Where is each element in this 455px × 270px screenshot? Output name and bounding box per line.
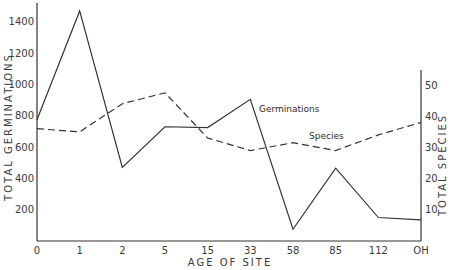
species-annotation: Species (309, 131, 344, 141)
x-tick-label: 85 (329, 245, 342, 256)
x-tick-label: 1 (76, 245, 82, 256)
y2-tick-label: 40 (425, 111, 438, 122)
y2-tick-label: 10 (425, 204, 438, 215)
y2-tick-label: 50 (425, 80, 438, 91)
x-tick-label: 15 (201, 245, 214, 256)
x-tick-label: 112 (369, 245, 388, 256)
y-tick-label: 600 (15, 142, 34, 153)
germinations-line (37, 11, 421, 229)
x-tick-labels: 012515335885112OH (34, 245, 429, 256)
y2-axis-title: TOTAL SPECIES (437, 114, 448, 217)
y-tick-label: 200 (15, 204, 34, 215)
x-tick-label: 0 (34, 245, 40, 256)
line-chart: 200400600800100012001400 1020304050 0125… (0, 0, 455, 270)
y2-tick-label: 20 (425, 173, 438, 184)
y-tick-label: 1400 (9, 16, 34, 27)
x-tick-label: 5 (162, 245, 168, 256)
germinations-annotation: Germinations (259, 104, 320, 114)
x-axis-title: AGE OF SITE (188, 257, 272, 268)
y-tick-label: 400 (15, 173, 34, 184)
x-tick-label: 58 (287, 245, 300, 256)
y2-tick-label: 30 (425, 142, 438, 153)
y-tick-label: 800 (15, 110, 34, 121)
right-y-tick-labels: 1020304050 (425, 80, 438, 216)
x-tick-label: OH (413, 245, 428, 256)
y-axis-title: TOTAL GERMINATIONS (3, 53, 14, 202)
x-tick-label: 2 (119, 245, 125, 256)
x-tick-label: 33 (244, 245, 257, 256)
species-line (37, 93, 421, 151)
